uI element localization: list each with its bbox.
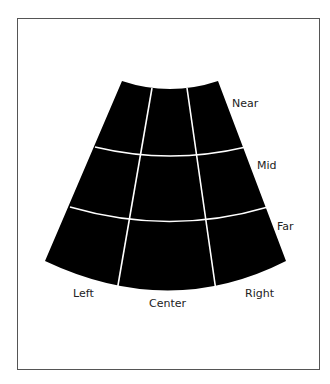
fov-sector xyxy=(45,81,286,291)
label-mid: Mid xyxy=(257,159,277,172)
label-left: Left xyxy=(73,287,94,300)
label-far: Far xyxy=(277,220,294,233)
label-right: Right xyxy=(245,287,274,300)
label-near: Near xyxy=(232,97,258,110)
field-of-view-grid xyxy=(0,0,330,384)
label-center: Center xyxy=(149,297,186,310)
